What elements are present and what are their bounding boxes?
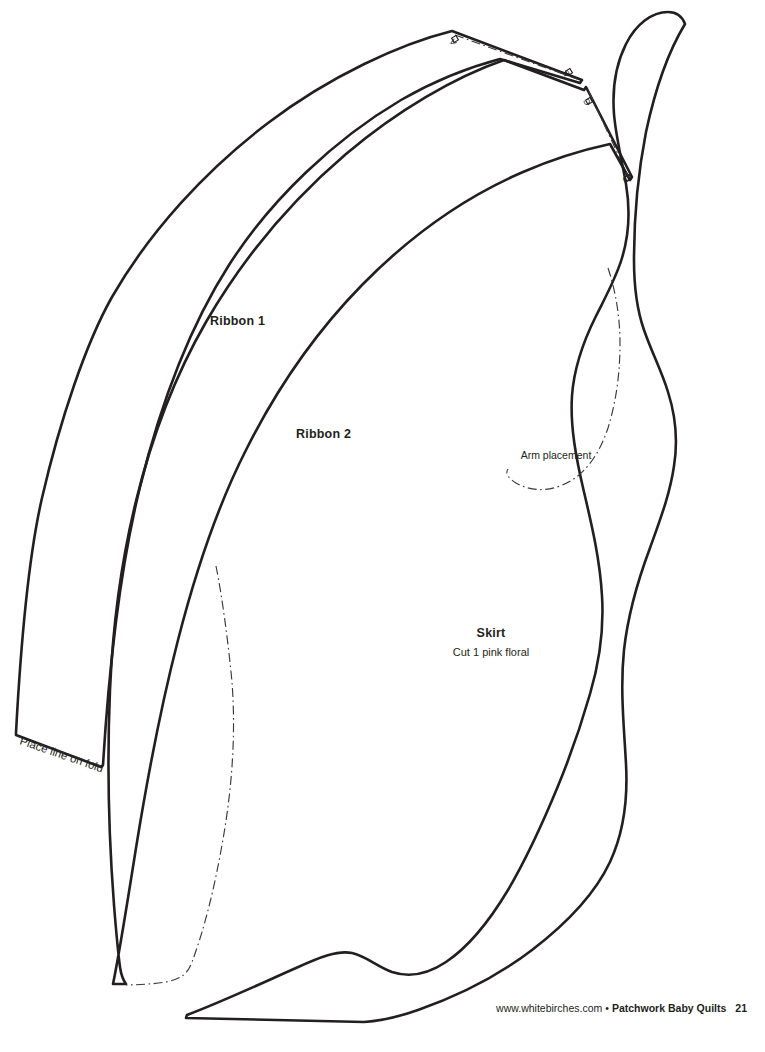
page-footer: www.whitebirches.com•Patchwork Baby Quil… — [0, 1002, 747, 1014]
corner-marks — [452, 36, 632, 182]
corner-letters: A B C D — [447, 37, 632, 184]
footer-website: www.whitebirches.com — [496, 1002, 602, 1014]
label-skirt: Skirt — [477, 626, 506, 640]
pattern-drawing: A B C D Ribbon 1 Ribbon 2 Skirt Cut 1 pi… — [0, 0, 765, 1052]
skirt-outline — [186, 12, 685, 1022]
pattern-sheet: A B C D Ribbon 1 Ribbon 2 Skirt Cut 1 pi… — [0, 0, 765, 1052]
label-arm-placement: Arm placement — [521, 449, 592, 461]
piece-skirt — [186, 12, 685, 1022]
label-ribbon-2: Ribbon 2 — [296, 427, 351, 441]
piece-ribbon-2 — [109, 60, 632, 985]
label-place-line-on-fold: Place line on fold — [18, 735, 105, 775]
label-skirt-cut-instruction: Cut 1 pink floral — [453, 646, 529, 658]
ribbon-2-outline — [109, 60, 632, 984]
notations: Arm placement Place line on fold — [18, 449, 591, 774]
label-ribbon-1: Ribbon 1 — [210, 314, 265, 328]
footer-separator-bullet: • — [602, 1002, 612, 1014]
footer-page-number: 21 — [726, 1002, 747, 1014]
footer-book-title: Patchwork Baby Quilts — [612, 1002, 726, 1014]
piece-labels: Ribbon 1 Ribbon 2 Skirt Cut 1 pink flora… — [210, 314, 529, 658]
